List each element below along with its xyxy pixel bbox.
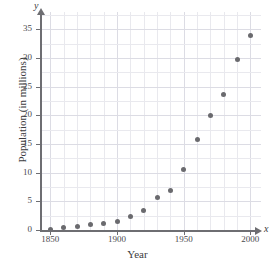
grid-line-vertical [117, 12, 118, 230]
x-axis-line [40, 230, 256, 232]
data-point [155, 195, 160, 200]
y-axis-tick [36, 29, 41, 30]
data-point [168, 188, 173, 193]
grid-line-horizontal [41, 72, 261, 73]
grid-line-horizontal [41, 58, 261, 59]
x-axis-tick-label: 1850 [30, 234, 70, 244]
grid-line-vertical [224, 12, 225, 230]
grid-line-vertical [130, 12, 131, 230]
grid-line-vertical [77, 12, 78, 230]
grid-line-horizontal [41, 101, 261, 102]
grid-line-horizontal [41, 158, 261, 159]
y-axis-title: Population (in millions) [16, 25, 28, 195]
grid-line-horizontal [41, 87, 261, 88]
grid-line-vertical [210, 12, 211, 230]
grid-line-horizontal [41, 29, 261, 30]
grid-line-vertical [170, 12, 171, 230]
grid-line-vertical [184, 12, 185, 230]
y-axis-tick [36, 173, 41, 174]
grid-line-vertical [50, 12, 51, 230]
grid-line-horizontal [41, 44, 261, 45]
grid-line-vertical [64, 12, 65, 230]
y-axis-tick [36, 115, 41, 116]
data-point [221, 92, 226, 97]
data-point [235, 57, 240, 62]
x-axis-tick-label: 2000 [230, 234, 270, 244]
y-axis-tick [36, 58, 41, 59]
grid-line-horizontal [41, 15, 261, 16]
y-axis-tick-label: 5 [6, 195, 32, 205]
x-axis-tick-label: 1950 [164, 234, 204, 244]
y-axis-line [40, 14, 42, 232]
grid-line-vertical [104, 12, 105, 230]
data-point [181, 167, 186, 172]
grid-line-horizontal [41, 130, 261, 131]
data-point [208, 113, 213, 118]
grid-line-vertical [144, 12, 145, 230]
data-point [101, 221, 106, 226]
x-axis-title: Year [0, 248, 275, 260]
grid-line-horizontal [41, 173, 261, 174]
y-axis-tick [36, 87, 41, 88]
grid-lines [41, 12, 261, 230]
data-point [75, 224, 80, 229]
x-axis-variable-label: x [264, 223, 268, 234]
grid-line-horizontal [41, 115, 261, 116]
grid-line-vertical [250, 12, 251, 230]
grid-line-horizontal [41, 201, 261, 202]
grid-line-vertical [237, 12, 238, 230]
y-axis-tick [36, 230, 41, 231]
y-axis-variable-label: y [34, 0, 38, 11]
scatter-plot-figure: 051015202530351850190019502000 y x Popul… [0, 0, 275, 268]
data-point [115, 219, 120, 224]
data-point [248, 33, 253, 38]
grid-line-horizontal [41, 216, 261, 217]
x-axis-tick-label: 1900 [97, 234, 137, 244]
data-point [128, 214, 133, 219]
grid-line-horizontal [41, 187, 261, 188]
y-axis-tick [36, 144, 41, 145]
y-axis-tick-label: 0 [6, 224, 32, 234]
grid-line-vertical [197, 12, 198, 230]
grid-line-vertical [90, 12, 91, 230]
plot-area [41, 12, 261, 230]
grid-line-horizontal [41, 144, 261, 145]
y-axis-tick [36, 201, 41, 202]
